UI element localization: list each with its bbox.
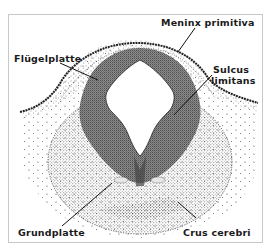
label-sulcus: Sulcus	[213, 64, 249, 75]
label-grundplatte: Grundplatte	[18, 227, 85, 238]
neural-tube-diagram: Meninx primitiva Flügelplatte Sulcus lim…	[0, 0, 271, 252]
label-crus-cerebri: Crus cerebri	[183, 227, 251, 238]
nucleus-left	[114, 177, 128, 183]
nucleus-right	[151, 177, 165, 183]
label-meninx-primitiva: Meninx primitiva	[161, 17, 255, 28]
label-limitans: limitans	[211, 75, 256, 86]
label-fluegelplatte: Flügelplatte	[14, 53, 81, 64]
